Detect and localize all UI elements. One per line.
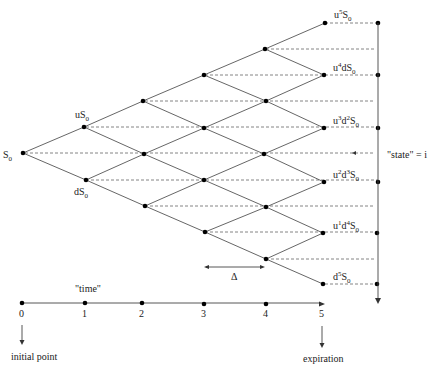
dashed-level-lines xyxy=(25,23,378,284)
time-axis-arrow-icon xyxy=(319,302,325,307)
initial-point-label: initial point xyxy=(11,351,58,362)
label-t1-up: uS0 xyxy=(75,109,90,123)
binomial-tree-diagram: S0 uS0 dS0 u5S0 u4dS0 u3d2S0 u2d3S0 u1d4… xyxy=(0,0,431,371)
tick-3: 3 xyxy=(201,308,206,319)
initial-point-arrow-icon xyxy=(20,340,25,345)
tick-0: 0 xyxy=(19,308,24,319)
state-axis-arrow-icon xyxy=(375,298,381,304)
time-ticks xyxy=(20,301,269,307)
small-arrow-icon xyxy=(352,151,356,155)
time-label: "time" xyxy=(75,283,101,294)
delta-label: Δ xyxy=(231,271,238,282)
label-terminal-3: u2d3S0 xyxy=(333,168,360,183)
tick-1: 1 xyxy=(82,308,87,319)
label-terminal-5: d5S0 xyxy=(333,270,351,285)
label-root: S0 xyxy=(3,149,13,163)
label-terminal-0: u5S0 xyxy=(334,8,352,23)
tick-4: 4 xyxy=(263,308,268,319)
tree-edges xyxy=(23,23,325,284)
expiration-arrow-icon xyxy=(320,343,325,348)
tree-nodes xyxy=(21,21,381,287)
delta-arrow-right-icon xyxy=(260,265,265,269)
state-label: "state" = i xyxy=(387,149,427,160)
label-terminal-1: u4dS0 xyxy=(333,61,356,76)
tick-5: 5 xyxy=(319,308,324,319)
expiration-label: expiration xyxy=(303,353,344,364)
delta-arrow-left-icon xyxy=(204,265,209,269)
tick-2: 2 xyxy=(139,308,144,319)
label-t1-down: dS0 xyxy=(74,186,89,200)
